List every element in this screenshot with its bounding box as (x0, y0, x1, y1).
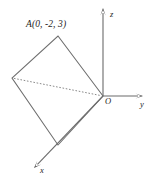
z-axis-label: z (110, 10, 113, 19)
figure-container: A(0, -2, 3) z y x O (0, 0, 152, 184)
z-axis (100, 8, 105, 96)
coordinate-figure-svg (0, 0, 152, 184)
y-axis-label: y (140, 100, 144, 109)
dashed-diagonal (14, 78, 101, 95)
square-polygon (12, 36, 103, 145)
x-axis-label: x (40, 166, 44, 175)
origin-label: O (105, 97, 111, 106)
point-a-label: A(0, -2, 3) (26, 20, 66, 30)
